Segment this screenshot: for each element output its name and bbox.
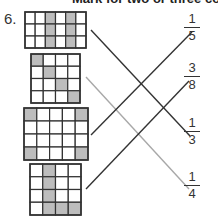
grid-cell — [30, 190, 43, 203]
grid-cell — [75, 121, 88, 134]
fraction-grid-4 — [30, 164, 81, 215]
grid-cell — [62, 134, 75, 147]
grid-cell-shaded — [75, 147, 88, 160]
grid-cell — [68, 190, 81, 203]
grid-cell — [56, 36, 66, 48]
grid-cell — [35, 12, 45, 24]
match-line-3 — [91, 32, 192, 135]
grid-cell — [56, 54, 68, 66]
grid-cell — [35, 24, 45, 36]
grid-cell — [43, 79, 55, 91]
fraction-grid-3 — [24, 108, 88, 160]
fraction-3-8: 3 8 — [184, 61, 200, 92]
fraction-denominator: 5 — [184, 29, 200, 43]
grid-cell — [56, 12, 66, 24]
grid-cell-shaded — [43, 177, 56, 190]
grid-cell — [24, 121, 37, 134]
grid-cell — [75, 134, 88, 147]
grid-cell — [24, 134, 37, 147]
fraction-1-3: 1 3 — [184, 116, 200, 147]
grid-cell-shaded — [43, 66, 55, 78]
grid-cell — [35, 36, 45, 48]
grid-cell — [68, 164, 81, 177]
grid-cell — [68, 66, 80, 78]
fraction-grid-2 — [31, 54, 80, 103]
fraction-1-5: 1 5 — [184, 12, 200, 43]
grid-cell — [37, 147, 50, 160]
fraction-denominator: 3 — [184, 133, 200, 147]
grid-cell-shaded — [68, 91, 80, 103]
fraction-numerator: 1 — [184, 116, 200, 130]
grid-cell — [62, 121, 75, 134]
grid-cell-shaded — [45, 24, 55, 36]
grid-cell — [56, 91, 68, 103]
grid-cell — [43, 91, 55, 103]
grid-cell — [76, 24, 86, 36]
grid-cell — [37, 108, 50, 121]
grid-cell — [62, 108, 75, 121]
grid-cell-shaded — [75, 108, 88, 121]
grid-cell — [50, 121, 63, 134]
grid-cell-shaded — [45, 36, 55, 48]
grid-cell — [56, 190, 69, 203]
grid-cell-shaded — [43, 190, 56, 203]
grid-cell — [56, 177, 69, 190]
grid-cell-shaded — [66, 12, 76, 24]
grid-cell-shaded — [45, 12, 55, 24]
grid-cell-shaded — [56, 79, 68, 91]
grid-cell — [50, 147, 63, 160]
grid-cell — [62, 147, 75, 160]
grid-cell-shaded — [43, 202, 56, 215]
grid-cell-shaded — [66, 36, 76, 48]
grid-cell-shaded — [68, 202, 81, 215]
fraction-numerator: 3 — [184, 61, 200, 75]
grid-cell — [76, 12, 86, 24]
grid-cell — [31, 66, 43, 78]
grid-cell — [76, 36, 86, 48]
grid-cell-shaded — [43, 164, 56, 177]
fraction-denominator: 4 — [184, 187, 200, 201]
grid-cell — [30, 164, 43, 177]
grid-cell-shaded — [24, 147, 37, 160]
fraction-1-4: 1 4 — [184, 170, 200, 201]
grid-cell — [37, 134, 50, 147]
grid-cell — [30, 177, 43, 190]
fraction-numerator: 1 — [184, 170, 200, 184]
grid-cell — [30, 202, 43, 215]
grid-cell — [37, 121, 50, 134]
grid-cell — [50, 134, 63, 147]
grid-cell — [50, 108, 63, 121]
fraction-grid-1 — [25, 12, 86, 48]
grid-cell — [31, 91, 43, 103]
grid-cell-shaded — [66, 24, 76, 36]
grid-cell — [68, 79, 80, 91]
grid-cell — [68, 54, 80, 66]
grid-cell — [68, 177, 81, 190]
grid-cell — [31, 79, 43, 91]
fraction-numerator: 1 — [184, 12, 200, 26]
grid-cell — [25, 24, 35, 36]
grid-cell — [56, 66, 68, 78]
grid-cell — [56, 24, 66, 36]
grid-cell — [43, 54, 55, 66]
grid-cell — [25, 36, 35, 48]
fraction-denominator: 8 — [184, 78, 200, 92]
grid-cell — [25, 12, 35, 24]
grid-cell — [56, 164, 69, 177]
grid-cell-shaded — [24, 108, 37, 121]
grid-cell-shaded — [56, 202, 69, 215]
grid-cell-shaded — [31, 54, 43, 66]
